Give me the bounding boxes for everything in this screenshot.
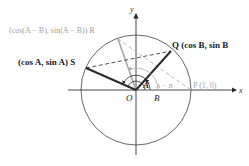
angle-a-minus-b-label: A − B — [155, 82, 173, 90]
point-p-label: P (1, 0) — [193, 81, 217, 90]
segment-os — [86, 68, 136, 90]
point-q-label: Q (cos B, sin B — [172, 40, 228, 50]
y-axis-label: y — [129, 5, 134, 14]
point-r-label: (cos(A − B), sin(A − B)) R — [9, 26, 95, 35]
origin-label: O — [126, 93, 133, 103]
point-s-label: (cos A, sin A) S — [18, 57, 75, 67]
unit-circle-diagram: y x O B A A − B P (1, 0) Q (cos B, sin B… — [0, 0, 249, 166]
angle-b-label: B — [154, 93, 160, 103]
x-axis-label: x — [238, 86, 243, 95]
angle-a-label: A — [142, 80, 149, 90]
